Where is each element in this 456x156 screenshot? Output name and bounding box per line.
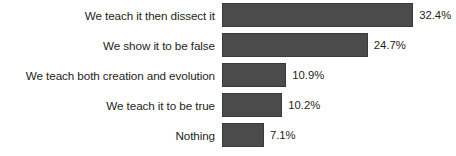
value-label: 10.2% [288,99,320,111]
bar-track: 10.9% [215,60,456,90]
bar-row: We show it to be false 24.7% [0,30,456,60]
bar-row: We teach it then dissect it 32.4% [0,0,456,30]
bar [222,93,282,117]
category-label: We teach it to be true [0,99,215,112]
bar-track: 10.2% [215,90,456,120]
bar [222,123,264,147]
category-label: Nothing [0,129,215,142]
value-label: 32.4% [419,9,451,21]
bar-track: 7.1% [215,120,456,150]
category-label: We teach it then dissect it [0,9,215,22]
value-label: 24.7% [374,39,406,51]
category-label: We teach both creation and evolution [0,69,215,82]
category-label: We show it to be false [0,39,215,52]
bar-row: Nothing 7.1% [0,120,456,150]
bar-row: We teach it to be true 10.2% [0,90,456,120]
bar [222,63,286,87]
bar-chart: We teach it then dissect it 32.4% We sho… [0,0,456,156]
bar [222,33,368,57]
value-label: 7.1% [270,129,296,141]
bar-track: 32.4% [215,0,456,30]
plot-area: We teach it then dissect it 32.4% We sho… [0,0,456,156]
bar-track: 24.7% [215,30,456,60]
bar-row: We teach both creation and evolution 10.… [0,60,456,90]
value-label: 10.9% [292,69,324,81]
bar [222,3,413,27]
